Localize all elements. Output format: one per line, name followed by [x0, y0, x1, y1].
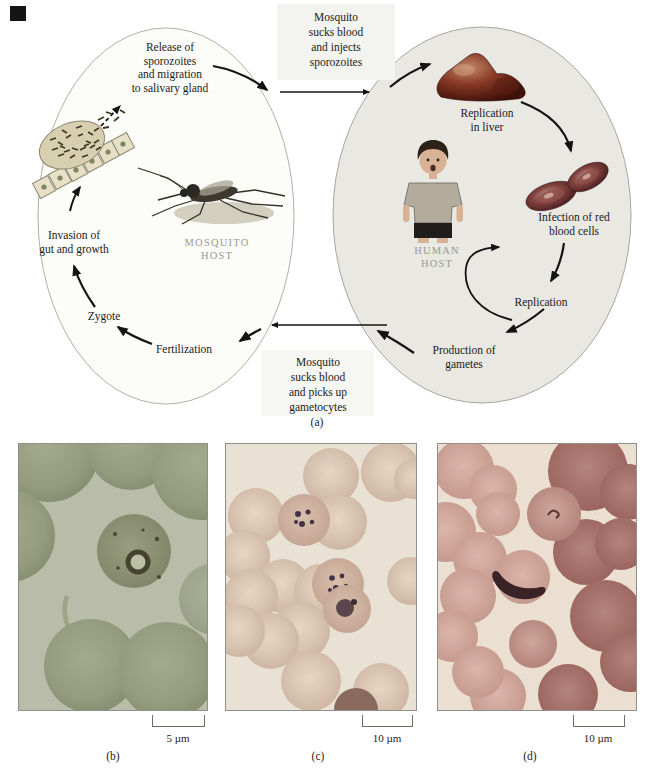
scale-bar-d [573, 715, 625, 727]
micrograph-b [18, 443, 208, 711]
human-host-line1: HUMAN [414, 245, 460, 258]
production-label: Production of gametes [433, 344, 496, 371]
transfer-top-line4: sporozoites [309, 55, 364, 70]
transfer-top-line3: and injects [309, 40, 364, 55]
fertilization-label: Fertilization [156, 343, 212, 357]
panel-a-caption: (a) [311, 416, 324, 428]
micrograph-c [225, 443, 417, 711]
transfer-top-line1: Mosquito [309, 10, 364, 25]
invasion-line1: Invasion of [39, 229, 109, 243]
mosquito-host-line1: MOSQUITO [185, 237, 250, 250]
panel-b-caption: (b) [106, 750, 119, 762]
scale-bar-b [152, 715, 205, 727]
release-line3: and migration [132, 68, 209, 82]
infection-rbc-label: Infection of red blood cells [538, 211, 610, 238]
human-shorts [414, 223, 452, 238]
replication-liver-label: Replication in liver [460, 107, 513, 134]
infected-cell-ring-stage [97, 514, 171, 588]
release-label: Release of sporozoites and migration to … [132, 41, 209, 95]
scale-label-b: 5 µm [166, 732, 189, 744]
dark-parasitized-cell [323, 585, 371, 633]
production-line1: Production of [433, 344, 496, 358]
release-line1: Release of [132, 41, 209, 55]
scale-bar-c [362, 715, 413, 727]
zygote-label: Zygote [88, 310, 121, 324]
mosquito-host-label: MOSQUITO HOST [185, 237, 250, 262]
transfer-bottom-label: Mosquito sucks blood and picks up gameto… [289, 355, 347, 415]
panel-d-caption: (d) [523, 750, 536, 762]
infected-cell-schizont-1 [278, 494, 330, 546]
release-line2: sporozoites [132, 55, 209, 69]
transfer-top-label: Mosquito sucks blood and injects sporozo… [309, 10, 364, 70]
release-line4: to salivary gland [132, 82, 209, 96]
infection-rbc-line1: Infection of red [538, 211, 610, 225]
invasion-line2: gut and growth [39, 243, 109, 257]
transfer-bottom-line4: gametocytes [289, 400, 347, 415]
micrograph-d-image [438, 444, 636, 710]
invasion-label: Invasion of gut and growth [39, 229, 109, 256]
infection-rbc-line2: blood cells [538, 225, 610, 239]
transfer-bottom-line3: and picks up [289, 385, 347, 400]
replication-label: Replication [514, 296, 567, 310]
scale-label-d: 10 µm [584, 732, 613, 744]
production-line2: gametes [433, 358, 496, 372]
transfer-top-line2: sucks blood [309, 25, 364, 40]
panel-c-caption: (c) [312, 750, 325, 762]
transfer-bottom-line2: sucks blood [289, 370, 347, 385]
replication-liver-line2: in liver [460, 121, 513, 135]
micrograph-b-image [19, 444, 207, 710]
replication-liver-line1: Replication [460, 107, 513, 121]
human-host-label: HUMAN HOST [414, 245, 460, 270]
scale-label-c: 10 µm [373, 732, 402, 744]
micrograph-c-image [226, 444, 416, 710]
mosquito-host-line2: HOST [185, 250, 250, 263]
figure-page: Mosquito sucks blood and injects sporozo… [0, 0, 647, 775]
micrograph-d [437, 443, 637, 711]
human-host-line2: HOST [414, 258, 460, 271]
transfer-bottom-line1: Mosquito [289, 355, 347, 370]
cell-with-young-parasite [527, 487, 581, 541]
